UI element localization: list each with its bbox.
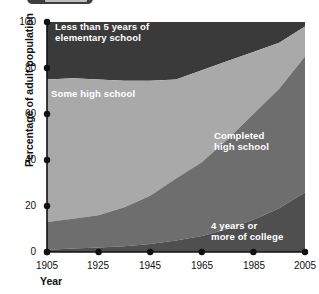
x-tick-label-1905: 1905 <box>29 260 65 271</box>
x-tick-mark-1985 <box>250 249 256 255</box>
series-label-completed-high-school: Completed high school <box>214 130 269 153</box>
y-tick-mark-60 <box>44 111 50 117</box>
y-tick-label-0: 0 <box>10 246 36 257</box>
x-tick-label-1985: 1985 <box>236 260 272 271</box>
x-tick-label-1925: 1925 <box>80 260 116 271</box>
x-tick-label-2005: 2005 <box>287 260 319 271</box>
x-tick-mark-2005 <box>302 249 308 255</box>
y-tick-label-60: 60 <box>10 108 36 119</box>
y-tick-mark-40 <box>44 157 50 163</box>
plot-area <box>0 0 319 294</box>
y-tick-label-20: 20 <box>10 200 36 211</box>
x-tick-label-1945: 1945 <box>132 260 168 271</box>
series-label-4-years-or-more-college: 4 years or more of college <box>211 220 283 243</box>
series-label-less-than-5-years-elementary: Less than 5 years of elementary school <box>55 21 149 44</box>
y-tick-mark-20 <box>44 203 50 209</box>
series-label-some-high-school: Some high school <box>51 88 135 99</box>
x-axis-title: Year <box>40 275 62 287</box>
x-tick-mark-1965 <box>199 249 205 255</box>
x-tick-label-1965: 1965 <box>184 260 220 271</box>
x-tick-mark-1905 <box>44 249 50 255</box>
y-tick-label-80: 80 <box>10 62 36 73</box>
y-tick-label-100: 100 <box>10 16 36 27</box>
y-tick-mark-100 <box>44 19 50 25</box>
y-tick-mark-80 <box>44 65 50 71</box>
x-tick-mark-1925 <box>95 249 101 255</box>
x-tick-mark-1945 <box>147 249 153 255</box>
stacked-area-chart-figure: Percentage of adult population Year 100 … <box>0 0 319 294</box>
y-tick-label-40: 40 <box>10 154 36 165</box>
